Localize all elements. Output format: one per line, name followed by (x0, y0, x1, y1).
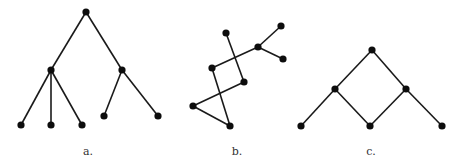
node-b6 (189, 102, 196, 109)
edge-b5-b6 (193, 82, 244, 106)
node-b0 (222, 29, 229, 36)
diagram-b-label: b. (232, 145, 243, 158)
node-b5 (240, 78, 247, 85)
edge-a2-a6 (104, 70, 122, 116)
node-b3 (279, 55, 286, 62)
edge-b1-b3 (258, 47, 283, 59)
edge-a1-a5 (51, 70, 82, 125)
edge-b4-b1 (212, 47, 258, 68)
edge-a0-a2 (86, 12, 122, 70)
node-b4 (208, 64, 215, 71)
diagram-b-crossed-tree (189, 22, 286, 129)
node-a5 (78, 121, 85, 128)
node-a1 (47, 66, 54, 73)
edge-c1-c4 (335, 89, 370, 126)
node-a3 (17, 121, 24, 128)
edge-c0-c1 (335, 50, 372, 89)
diagram-c-label: c. (366, 145, 376, 158)
graph-figure: a. b. c. (0, 0, 462, 166)
node-c0 (368, 46, 375, 53)
edge-c1-c3 (301, 89, 335, 126)
edge-a0-a1 (51, 12, 86, 70)
edge-b1-b2 (258, 26, 281, 47)
node-c3 (297, 122, 304, 129)
node-c1 (331, 85, 338, 92)
diagram-a-tree (17, 8, 161, 128)
node-a0 (82, 8, 89, 15)
edge-c2-c4 (370, 89, 406, 126)
node-a7 (154, 112, 161, 119)
node-c2 (402, 85, 409, 92)
edge-c0-c2 (372, 50, 406, 89)
diagram-a-label: a. (83, 145, 93, 158)
edge-c2-c5 (406, 89, 442, 126)
node-c5 (438, 122, 445, 129)
diagram-c-cyclic-graph (297, 46, 445, 129)
node-b7 (226, 122, 233, 129)
edge-a1-a3 (21, 70, 51, 125)
node-a6 (100, 112, 107, 119)
node-b1 (254, 43, 261, 50)
node-c4 (366, 122, 373, 129)
node-b2 (277, 22, 284, 29)
node-a4 (47, 121, 54, 128)
node-a2 (118, 66, 125, 73)
edge-a2-a7 (122, 70, 158, 116)
